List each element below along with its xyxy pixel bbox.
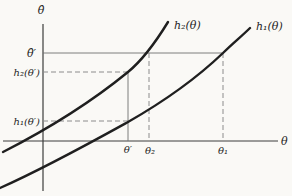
diagram-canvas: θ̂ θ h₂(θ) h₁(θ) θ̂′ h₂(θ′) h₁(θ′) θ′ θ₂… xyxy=(0,0,292,196)
h2-of-theta-prime-label: h₂(θ′) xyxy=(13,67,40,78)
h1-curve xyxy=(0,28,250,188)
h1-of-theta-prime-label: h₁(θ′) xyxy=(13,116,40,127)
h1-curve-label: h₁(θ) xyxy=(256,20,283,33)
theta-2-label: θ₂ xyxy=(145,145,155,156)
y-axis-title: θ̂ xyxy=(38,4,45,17)
theta-prime-label: θ′ xyxy=(124,144,133,155)
theta-hat-prime-label: θ̂′ xyxy=(27,47,37,60)
estimator-diagram: θ̂ θ h₂(θ) h₁(θ) θ̂′ h₂(θ′) h₁(θ′) θ′ θ₂… xyxy=(0,0,292,196)
theta-1-label: θ₁ xyxy=(218,145,228,156)
h2-curve-label: h₂(θ) xyxy=(174,19,201,32)
x-axis-title: θ xyxy=(281,135,288,148)
h2-curve xyxy=(3,22,168,152)
